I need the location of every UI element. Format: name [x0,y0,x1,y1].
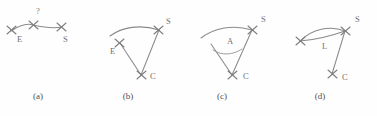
panel-a-label-e: E [17,34,22,44]
figure-container: E ? S S E C S A C S L C (a) (b) (c) (d) [0,0,377,116]
cross-middle [29,21,38,29]
panel-b-label-e: E [110,46,115,56]
panel-a-drawing [7,21,66,34]
cross-s [341,27,350,35]
panel-c-label-s: S [261,14,266,24]
panel-d-radius-cs [332,31,345,74]
panel-d-arc-upper [300,28,345,41]
panel-b-label-s: S [166,16,171,26]
panel-b-radius-ce [120,43,141,75]
caption-panel-a: (a) [33,91,43,101]
cross-s [154,26,163,34]
panel-d-drawing [296,27,350,78]
panel-b-radius-cs [141,30,159,75]
cross-c [228,71,237,79]
cross-s [248,26,257,34]
cross-e [115,39,124,47]
panel-a-label-s: S [63,34,68,44]
caption-panel-c: (c) [217,91,227,101]
caption-panel-d: (d) [315,91,326,101]
cross-left-end [7,26,16,34]
panel-c-radius-ce [211,44,232,75]
panel-c-label-c: C [243,71,249,81]
panel-a-label-question: ? [36,6,40,16]
panel-c-label-a: A [227,36,234,46]
cross-c [137,71,146,79]
caption-panel-b: (b) [123,91,134,101]
panel-b-arc [110,27,159,36]
panel-b-label-c: C [150,71,156,81]
panel-d-label-s: S [355,14,360,24]
panel-d-label-l: L [322,41,327,51]
panel-d-label-c: C [342,72,348,82]
